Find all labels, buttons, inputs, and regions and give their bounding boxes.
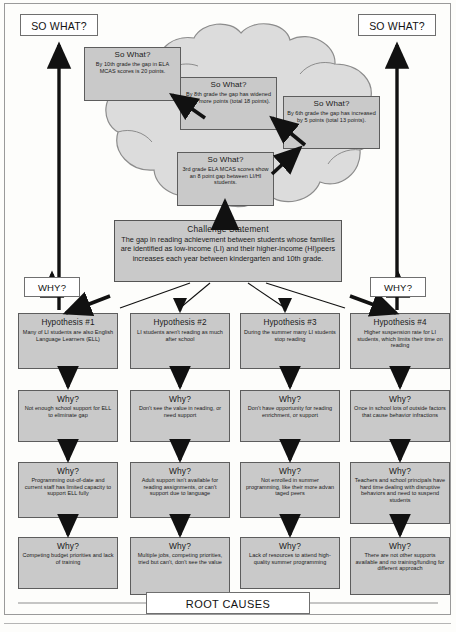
challenge-statement-body: The gap in reading achievement between s… bbox=[115, 235, 341, 263]
why-body: Lack of resources to attend high-quality… bbox=[241, 551, 339, 565]
why-box-2-3: Why? Multiple jobs, competing priorities… bbox=[130, 537, 230, 595]
why-banner-left-label: WHY? bbox=[25, 278, 79, 297]
hypothesis-body: LI students aren't reading as much after… bbox=[131, 328, 229, 342]
why-body: There are not other supports available a… bbox=[351, 551, 449, 572]
root-causes-label: ROOT CAUSES bbox=[147, 593, 309, 614]
why-body: Teachers and school principals have hard… bbox=[351, 476, 449, 503]
why-box-3-3: Why? Lack of resources to attend high-qu… bbox=[240, 537, 340, 589]
why-title: Why? bbox=[241, 541, 339, 551]
hypothesis-box-1: Hypothesis #1 Many of LI students are al… bbox=[18, 313, 118, 369]
so-what-banner-right: SO WHAT? bbox=[358, 14, 436, 36]
so-what-box-6th-grade: So What? By 6th grade the gap has increa… bbox=[283, 96, 380, 149]
why-box-4-2: Why? Teachers and school principals have… bbox=[350, 462, 450, 524]
hypothesis-title: Hypothesis #3 bbox=[241, 318, 339, 328]
challenge-statement-box: Challenge Statement The gap in reading a… bbox=[114, 220, 342, 282]
hypothesis-box-4: Hypothesis #4 Higher suspension rate for… bbox=[350, 313, 450, 369]
why-title: Why? bbox=[131, 541, 229, 551]
so-what-box-3rd-grade: So What? 3rd grade ELA MCAS scores show … bbox=[177, 152, 274, 206]
why-title: Why? bbox=[351, 466, 449, 476]
why-body: Not enrolled in summer programming, like… bbox=[241, 476, 339, 497]
why-box-4-1: Why? Once in school lots of outside fact… bbox=[350, 390, 450, 442]
hypothesis-title: Hypothesis #4 bbox=[351, 318, 449, 328]
so-what-box-body: By 6th grade the gap has increased by 5 … bbox=[284, 109, 379, 123]
why-body: Programming out-of-date and current staf… bbox=[19, 476, 117, 497]
why-body: Once in school lots of outside factors t… bbox=[351, 404, 449, 418]
why-box-1-3: Why? Competing budget priorities and lac… bbox=[18, 537, 118, 589]
hypothesis-box-2: Hypothesis #2 LI students aren't reading… bbox=[130, 313, 230, 369]
why-body: Not enough school support for ELL to eli… bbox=[19, 404, 117, 418]
hypothesis-title: Hypothesis #1 bbox=[19, 318, 117, 328]
hypothesis-body: Higher suspension rate for LI students, … bbox=[351, 328, 449, 349]
why-body: Multiple jobs, competing priorities, tri… bbox=[131, 551, 229, 565]
root-causes-banner: ROOT CAUSES bbox=[146, 592, 310, 614]
hypothesis-title: Hypothesis #2 bbox=[131, 318, 229, 328]
so-what-box-title: So What? bbox=[181, 80, 276, 90]
why-title: Why? bbox=[19, 466, 117, 476]
hypothesis-body: During the summer many LI students stop … bbox=[241, 328, 339, 342]
hypothesis-body: Many of LI students are also English Lan… bbox=[19, 328, 117, 342]
hypothesis-box-3: Hypothesis #3 During the summer many LI … bbox=[240, 313, 340, 369]
why-box-3-1: Why? Don't have opportunity for reading … bbox=[240, 390, 340, 442]
challenge-statement-title: Challenge Statement bbox=[115, 224, 341, 235]
why-title: Why? bbox=[241, 466, 339, 476]
why-banner-right: WHY? bbox=[370, 277, 426, 297]
so-what-box-body: By 10th grade the gap in ELA MCAS scores… bbox=[85, 60, 180, 74]
so-what-box-body: 3rd grade ELA MCAS scores show an 8 poin… bbox=[178, 165, 273, 186]
root-cause-analysis-diagram: SO WHAT? SO WHAT? WHY? WHY? So What? By … bbox=[0, 0, 456, 632]
why-title: Why? bbox=[131, 466, 229, 476]
so-what-banner-left: SO WHAT? bbox=[20, 14, 98, 36]
why-body: Don't have opportunity for reading enric… bbox=[241, 404, 339, 418]
why-title: Why? bbox=[19, 541, 117, 551]
so-what-banner-right-label: SO WHAT? bbox=[359, 15, 435, 36]
why-title: Why? bbox=[19, 394, 117, 404]
so-what-box-title: So What? bbox=[178, 155, 273, 165]
so-what-box-body: By 8th grade the gap has widened by 5 mo… bbox=[181, 90, 276, 104]
why-body: Don't see the value in reading, or need … bbox=[131, 404, 229, 418]
why-title: Why? bbox=[241, 394, 339, 404]
why-box-2-2: Why? Adult support isn't available for r… bbox=[130, 462, 230, 518]
why-box-2-1: Why? Don't see the value in reading, or … bbox=[130, 390, 230, 442]
why-title: Why? bbox=[351, 394, 449, 404]
why-box-3-2: Why? Not enrolled in summer programming,… bbox=[240, 462, 340, 518]
so-what-box-10th-grade: So What? By 10th grade the gap in ELA MC… bbox=[84, 47, 181, 101]
why-banner-left: WHY? bbox=[24, 277, 80, 297]
why-title: Why? bbox=[131, 394, 229, 404]
so-what-box-title: So What? bbox=[85, 50, 180, 60]
so-what-banner-left-label: SO WHAT? bbox=[21, 15, 97, 36]
why-box-1-1: Why? Not enough school support for ELL t… bbox=[18, 390, 118, 442]
why-banner-right-label: WHY? bbox=[371, 278, 425, 297]
page-bottom-rule bbox=[4, 623, 451, 624]
so-what-box-8th-grade: So What? By 8th grade the gap has widene… bbox=[180, 77, 277, 130]
why-body: Competing budget priorities and lack of … bbox=[19, 551, 117, 565]
why-box-1-2: Why? Programming out-of-date and current… bbox=[18, 462, 118, 518]
why-body: Adult support isn't available for readin… bbox=[131, 476, 229, 497]
why-box-4-3: Why? There are not other supports availa… bbox=[350, 537, 450, 595]
why-title: Why? bbox=[351, 541, 449, 551]
so-what-box-title: So What? bbox=[284, 99, 379, 109]
